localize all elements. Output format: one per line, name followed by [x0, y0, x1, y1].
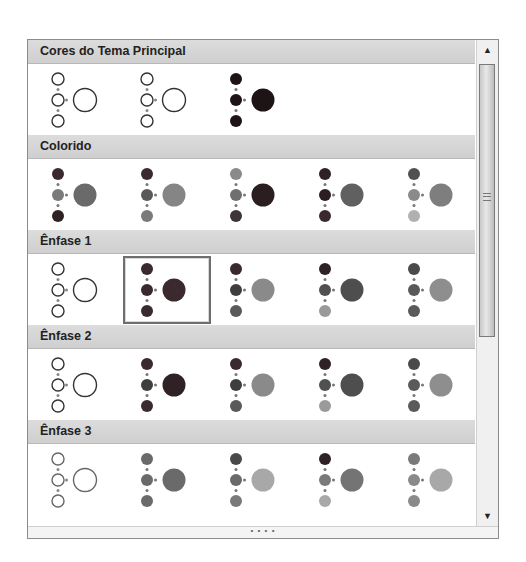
cycle-diagram-icon	[212, 351, 300, 419]
cycle-diagram-icon	[301, 256, 389, 324]
section-header: Cores do Tema Principal	[28, 40, 475, 64]
color-option[interactable]	[301, 161, 389, 229]
cycle-diagram-icon	[34, 66, 122, 134]
cycle-diagram-icon	[212, 66, 300, 134]
cycle-diagram-icon	[390, 256, 475, 324]
color-option[interactable]	[212, 66, 300, 134]
cycle-diagram-icon	[34, 446, 122, 514]
section-header: Ênfase 2	[28, 325, 475, 349]
cycle-diagram-icon	[123, 66, 211, 134]
color-option[interactable]	[390, 446, 475, 514]
cycle-diagram-icon	[301, 161, 389, 229]
cycle-diagram-icon	[390, 446, 475, 514]
color-option[interactable]	[34, 256, 122, 324]
cycle-diagram-icon	[123, 351, 211, 419]
cycle-diagram-icon	[212, 446, 300, 514]
color-option[interactable]	[123, 66, 211, 134]
color-option[interactable]	[34, 446, 122, 514]
color-option[interactable]	[212, 161, 300, 229]
cycle-diagram-icon	[123, 161, 211, 229]
color-option[interactable]	[212, 351, 300, 419]
resize-grip[interactable]: • • • •	[28, 526, 498, 538]
color-option[interactable]	[123, 256, 211, 324]
color-option[interactable]	[301, 351, 389, 419]
cycle-diagram-icon	[390, 161, 475, 229]
section-row	[28, 444, 475, 515]
cycle-diagram-icon	[212, 161, 300, 229]
section-row	[28, 349, 475, 420]
color-option[interactable]	[34, 351, 122, 419]
cycle-diagram-icon	[34, 161, 122, 229]
resize-grip-dots: • • • •	[251, 526, 276, 535]
cycle-diagram-icon	[34, 256, 122, 324]
section-header: Ênfase 1	[28, 230, 475, 254]
color-option[interactable]	[212, 446, 300, 514]
section-row	[28, 159, 475, 230]
cycle-diagram-icon	[301, 351, 389, 419]
gallery-content: Cores do Tema Principal Colorido	[28, 40, 475, 526]
section-header: Colorido	[28, 135, 475, 159]
section-header: Ênfase 3	[28, 420, 475, 444]
color-option[interactable]	[390, 351, 475, 419]
color-option[interactable]	[301, 256, 389, 324]
cycle-diagram-icon	[34, 351, 122, 419]
color-option[interactable]	[123, 351, 211, 419]
cycle-diagram-icon	[212, 256, 300, 324]
color-option[interactable]	[390, 256, 475, 324]
color-option[interactable]	[34, 66, 122, 134]
scroll-thumb[interactable]	[479, 64, 495, 337]
grip-icon	[483, 193, 491, 201]
color-option[interactable]	[212, 256, 300, 324]
color-option[interactable]	[34, 161, 122, 229]
color-option[interactable]	[123, 446, 211, 514]
cycle-diagram-icon	[123, 446, 211, 514]
color-option[interactable]	[301, 446, 389, 514]
scroll-up-arrow-icon[interactable]: ▲	[477, 40, 498, 60]
section-row	[28, 64, 475, 135]
cycle-diagram-icon	[125, 258, 213, 326]
vertical-scrollbar[interactable]: ▲ ▼	[476, 40, 498, 526]
color-option[interactable]	[123, 161, 211, 229]
cycle-diagram-icon	[301, 446, 389, 514]
color-option[interactable]	[390, 161, 475, 229]
cycle-diagram-icon	[390, 351, 475, 419]
section-row	[28, 254, 475, 325]
scroll-down-arrow-icon[interactable]: ▼	[477, 506, 498, 526]
smartart-color-gallery: Cores do Tema Principal Colorido	[27, 39, 499, 539]
